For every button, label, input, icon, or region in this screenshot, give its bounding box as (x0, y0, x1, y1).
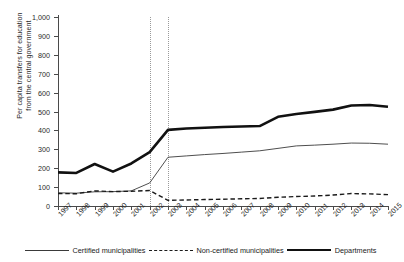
y-axis-tick-label: 300 (5, 145, 50, 154)
x-axis-tick-label: 2015 (386, 201, 404, 219)
legend-swatch-icon (25, 250, 69, 251)
y-axis-tick-label: 100 (5, 183, 50, 192)
y-axis-tick-label: 800 (5, 51, 50, 60)
y-axis-tick-label: 900 (5, 32, 50, 41)
y-axis-tick-label: 700 (5, 70, 50, 79)
cropped-title-strip (0, 0, 404, 8)
chart-figure: Per capita transfers for education from … (0, 0, 404, 262)
chart-legend: Certified municipalitiesNon-certified mu… (0, 243, 404, 257)
plot-area: 01002003004005006007008009001,000 199719… (58, 17, 388, 206)
legend-item-departments[interactable]: Departments (287, 246, 380, 255)
y-axis-tick-label: 1,000 (5, 13, 50, 22)
y-axis-tick-label: 200 (5, 164, 50, 173)
legend-label: Non-certified municipalities (193, 246, 287, 255)
legend-swatch-icon (287, 249, 331, 251)
y-axis-tick-label: 600 (5, 89, 50, 98)
y-axis-tick-label: 0 (5, 202, 50, 211)
legend-label: Departments (331, 246, 380, 255)
y-axis-tick-label: 400 (5, 126, 50, 135)
legend-item-certified-municipalities[interactable]: Certified municipalities (25, 246, 149, 255)
series-line-departments (58, 105, 388, 173)
series-lines (58, 17, 388, 206)
legend-item-non-certified-municipalities[interactable]: Non-certified municipalities (149, 246, 287, 255)
legend-swatch-icon (149, 250, 193, 251)
y-axis-tick-label: 500 (5, 108, 50, 117)
legend-label: Certified municipalities (69, 246, 149, 255)
